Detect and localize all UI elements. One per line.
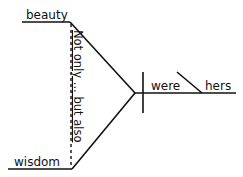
- sentence-diagram: beauty wisdom Not only ... but also were…: [0, 0, 243, 177]
- verb-word: were: [151, 79, 180, 93]
- conjunction-label: Not only ... but also: [71, 30, 85, 142]
- subject-word-wisdom: wisdom: [14, 155, 60, 169]
- complement-word: hers: [205, 79, 231, 93]
- complement-slant-line: [177, 72, 202, 93]
- subject-word-beauty: beauty: [26, 8, 68, 22]
